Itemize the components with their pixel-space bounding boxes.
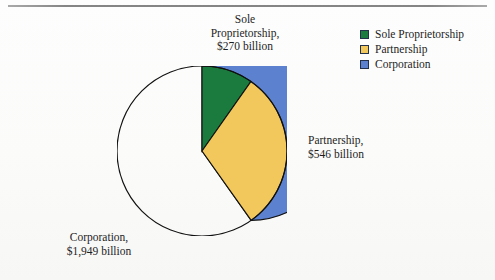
legend-swatch-icon [360,60,369,69]
title-divider-rule [8,5,487,7]
legend-item-partnership[interactable]: Partnership [360,42,464,56]
slice-label-corporation: Corporation, $1,949 billion [36,231,162,258]
legend-item-sole-proprietorship[interactable]: Sole Proprietorship [360,27,464,41]
legend-swatch-icon [360,45,369,54]
legend-label: Corporation [375,58,431,70]
legend-item-corporation[interactable]: Corporation [360,57,464,71]
chart-legend: Sole Proprietorship Partnership Corporat… [360,27,464,72]
legend-label: Sole Proprietorship [375,28,464,40]
slice-label-partnership: Partnership, $546 billion [308,134,418,161]
pie-chart [117,66,287,236]
slice-label-sole-proprietorship: Sole Proprietorship, $270 billion [193,13,297,54]
pie-svg [117,66,287,236]
chart-figure: Sole Proprietorship, $270 billion Partne… [0,0,495,280]
legend-swatch-icon [360,30,369,39]
chart-title-clipped [0,0,495,5]
legend-label: Partnership [375,43,427,55]
